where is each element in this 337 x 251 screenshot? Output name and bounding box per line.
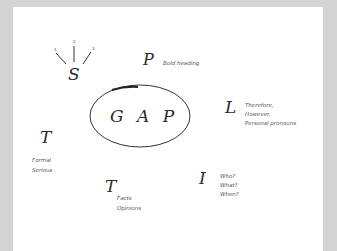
fan-mark-1: 1 bbox=[54, 47, 57, 52]
fan-mark-3: 3 bbox=[92, 46, 95, 51]
fan-stroke-3 bbox=[83, 52, 91, 64]
fan-stroke-1 bbox=[56, 53, 66, 64]
center-gap: G A P bbox=[90, 85, 190, 147]
node-p: P Bold heading bbox=[142, 50, 200, 69]
letter-i: I bbox=[198, 168, 206, 188]
letter-l: L bbox=[224, 97, 236, 117]
note-who: Who? bbox=[220, 173, 235, 179]
node-s: 1 2 3 S bbox=[54, 39, 95, 84]
diagram-canvas: 1 2 3 S P Bold heading G A P L Therefore… bbox=[0, 0, 337, 251]
note-therefore: Therefore, bbox=[245, 102, 274, 108]
letter-p: P bbox=[142, 50, 154, 69]
note-serious: Serious bbox=[32, 167, 53, 173]
note-formal: Formal bbox=[32, 157, 52, 163]
node-t-facts: T Facts Opinions bbox=[105, 176, 141, 212]
letter-s: S bbox=[68, 64, 80, 84]
letter-t-facts: T bbox=[105, 176, 118, 196]
node-i: I Who? What? When? bbox=[198, 168, 239, 197]
note-facts: Facts bbox=[117, 195, 132, 201]
center-label: G A P bbox=[110, 106, 178, 126]
note-however: However, bbox=[245, 111, 271, 117]
note-opinions: Opinions bbox=[117, 205, 141, 212]
note-when: When? bbox=[220, 191, 239, 197]
node-l: L Therefore, However, Personal pronouns bbox=[224, 97, 296, 127]
node-t-formal: T Formal Serious bbox=[32, 127, 53, 173]
note-personal-pronouns: Personal pronouns bbox=[245, 120, 296, 127]
letter-t-formal: T bbox=[40, 127, 53, 147]
note-what: What? bbox=[220, 182, 237, 188]
ellipse-accent-stroke bbox=[112, 87, 138, 90]
note-bold-heading: Bold heading bbox=[163, 60, 200, 67]
fan-mark-2: 2 bbox=[73, 39, 76, 44]
